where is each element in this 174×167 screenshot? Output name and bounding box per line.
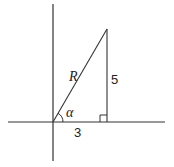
angle-label: α: [66, 105, 74, 120]
hypotenuse-line: [53, 29, 107, 122]
opposite-side-label: 5: [111, 72, 118, 87]
diagram-canvas: R 5 α 3: [0, 0, 174, 167]
hypotenuse-label: R: [68, 69, 78, 84]
triangle-diagram: R 5 α 3: [0, 0, 174, 167]
adjacent-side-label: 3: [74, 125, 81, 140]
angle-arc: [58, 113, 63, 122]
right-angle-marker: [100, 115, 107, 122]
